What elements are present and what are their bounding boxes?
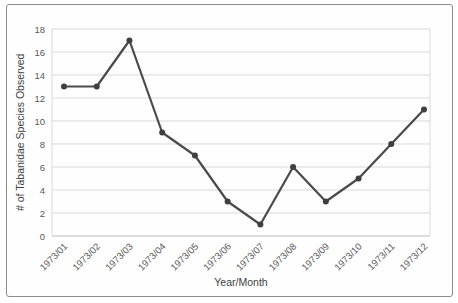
- data-point: [323, 199, 329, 205]
- data-point: [61, 84, 67, 90]
- data-point: [388, 141, 394, 147]
- y-tick-label: 6: [40, 162, 45, 173]
- y-tick-label: 18: [34, 24, 45, 35]
- data-point: [159, 130, 165, 136]
- x-tick-label: 1973/02: [70, 241, 102, 273]
- y-tick-label: 8: [40, 139, 45, 150]
- data-point: [192, 153, 198, 159]
- data-point: [257, 222, 263, 228]
- y-tick-label: 12: [34, 93, 45, 104]
- x-tick-label: 1973/01: [37, 241, 69, 273]
- x-axis-title: Year/Month: [52, 276, 430, 292]
- data-line: [64, 41, 424, 225]
- data-point: [126, 38, 132, 44]
- data-point: [225, 199, 231, 205]
- x-tick-label: 1973/10: [332, 241, 364, 273]
- x-tick-label: 1973/08: [266, 241, 298, 273]
- x-tick-label: 1973/11: [365, 241, 397, 273]
- y-tick-label: 4: [40, 185, 45, 196]
- data-point: [356, 176, 362, 182]
- data-point: [94, 84, 100, 90]
- chart-svg: 0246810121416181973/011973/021973/031973…: [0, 0, 458, 303]
- x-tick-label: 1973/05: [168, 241, 200, 273]
- x-tick-label: 1973/09: [299, 241, 331, 273]
- data-point: [421, 107, 427, 113]
- y-tick-label: 16: [34, 47, 45, 58]
- data-point: [290, 164, 296, 170]
- x-tick-label: 1973/07: [234, 241, 266, 273]
- y-axis-title: # of Tabanidae Species Observed: [11, 29, 29, 236]
- x-tick-label: 1973/06: [201, 241, 233, 273]
- y-tick-label: 0: [40, 231, 45, 242]
- y-tick-label: 14: [34, 70, 45, 81]
- x-tick-label: 1973/04: [136, 241, 168, 273]
- x-tick-label: 1973/12: [397, 241, 429, 273]
- y-tick-label: 10: [34, 116, 45, 127]
- y-tick-label: 2: [40, 208, 45, 219]
- x-tick-label: 1973/03: [103, 241, 135, 273]
